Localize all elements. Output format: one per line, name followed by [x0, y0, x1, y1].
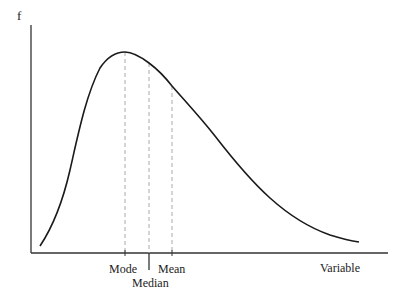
y-axis-label: f — [17, 9, 21, 22]
density-chart — [0, 0, 404, 300]
median-label: Median — [132, 277, 169, 289]
mean-label: Mean — [158, 263, 185, 275]
mode-label: Mode — [109, 263, 137, 275]
density-curve — [40, 52, 359, 246]
x-axis-label: Variable — [320, 262, 360, 274]
